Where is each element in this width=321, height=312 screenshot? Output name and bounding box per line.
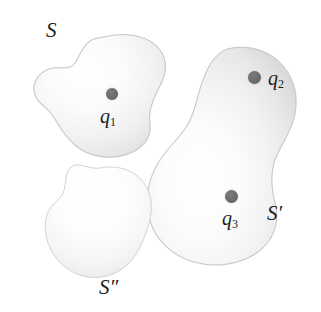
point-label-q3-base: q (222, 207, 232, 229)
point-label-q2-subscript: 2 (278, 77, 284, 91)
point-dot-q1 (106, 88, 118, 100)
region-label-s-double-prime: S″ (99, 277, 118, 298)
point-label-q3: q3 (222, 208, 238, 228)
region-label-s-prime: S′ (267, 203, 282, 224)
point-label-q1-base: q (100, 105, 110, 127)
figure-canvas: S S′ S″ q1 q2 q3 (0, 0, 321, 312)
point-label-q3-subscript: 3 (232, 217, 238, 231)
point-dot-q2 (248, 71, 261, 84)
region-s-double-prime (45, 165, 151, 278)
point-dot-q3 (225, 190, 238, 203)
region-label-s: S (46, 20, 57, 41)
point-label-q2: q2 (268, 68, 284, 88)
blob-layer (0, 0, 321, 312)
region-s (34, 35, 166, 158)
point-label-q1: q1 (100, 106, 116, 126)
point-label-q2-base: q (268, 67, 278, 89)
point-label-q1-subscript: 1 (110, 115, 116, 129)
